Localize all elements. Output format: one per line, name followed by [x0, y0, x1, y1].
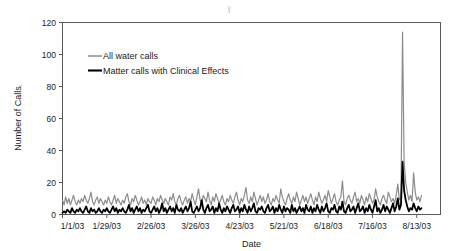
y-tick-label: 100 [42, 50, 56, 60]
x-tick-label: 1/1/03 [61, 221, 85, 231]
chart-figure: 0204060801001201/1/031/29/032/26/033/26/… [0, 0, 463, 251]
x-tick-label: 4/23/03 [225, 221, 254, 231]
y-tick-label: 120 [42, 18, 56, 28]
scan-dot [20, 85, 21, 86]
x-tick-label: 7/16/03 [358, 221, 387, 231]
x-axis-title: Date [242, 239, 261, 249]
y-tick-label: 80 [47, 82, 57, 92]
legend-label-0: All water calls [103, 51, 159, 61]
y-tick-label: 60 [47, 114, 57, 124]
scan-smudge [228, 6, 230, 13]
y-tick-label: 40 [47, 146, 57, 156]
y-tick-label: 20 [47, 178, 57, 188]
x-tick-label: 5/21/03 [270, 221, 299, 231]
series-line-matter-calls-clinical-effects [63, 162, 422, 213]
line-chart: 0204060801001201/1/031/29/032/26/033/26/… [0, 0, 463, 251]
x-tick-label: 2/26/03 [137, 221, 166, 231]
y-axis-title: Number of Calls [13, 86, 23, 151]
x-tick-label: 8/13/03 [403, 221, 432, 231]
legend-label-1: Matter calls with Clinical Effects [103, 66, 229, 76]
x-tick-label: 1/29/03 [93, 221, 122, 231]
x-tick-label: 3/26/03 [181, 221, 210, 231]
x-tick-label: 6/18/03 [314, 221, 343, 231]
y-tick-label: 0 [51, 210, 56, 220]
